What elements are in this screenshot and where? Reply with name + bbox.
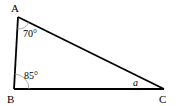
angle-label-c: a	[133, 77, 138, 88]
side-ab	[14, 17, 18, 89]
side-ac	[18, 17, 164, 89]
vertex-label-a: A	[11, 2, 19, 14]
triangle-diagram: A B C 70° 85° a	[0, 0, 181, 106]
vertex-label-b: B	[7, 93, 14, 105]
angle-label-a: 70°	[23, 28, 37, 39]
vertex-label-c: C	[159, 93, 166, 105]
angle-label-b: 85°	[24, 70, 38, 81]
